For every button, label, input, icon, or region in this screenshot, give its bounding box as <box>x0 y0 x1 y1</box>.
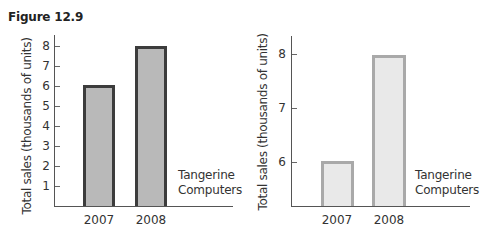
right-tick-label-8: 8 <box>272 47 286 61</box>
right-series-label-line1: Tangerine <box>415 168 479 183</box>
right-tick-6 <box>292 162 297 163</box>
right-tick-7 <box>292 108 297 109</box>
right-bar-2008 <box>372 55 406 206</box>
right-y-axis-label: Total sales (thousands of units) <box>256 32 270 212</box>
right-series-label-line2: Computers <box>415 183 479 198</box>
right-tick-label-6: 6 <box>272 155 286 169</box>
right-y-axis <box>291 36 292 207</box>
right-x-label-2007: 2007 <box>317 213 357 227</box>
right-series-label: Tangerine Computers <box>415 168 479 198</box>
right-tick-label-7: 7 <box>272 101 286 115</box>
right-x-label-2008: 2008 <box>369 213 409 227</box>
right-chart: Total sales (thousands of units) 6 7 8 2… <box>0 0 496 242</box>
right-x-axis <box>291 206 470 207</box>
right-tick-8 <box>292 54 297 55</box>
right-bar-2007 <box>321 161 354 206</box>
